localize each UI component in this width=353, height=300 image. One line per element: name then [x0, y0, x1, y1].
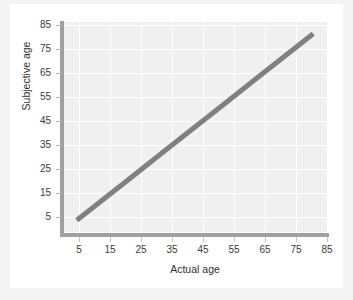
y-axis-spine: [60, 21, 64, 237]
y-axis-tick: [56, 121, 62, 122]
y-axis-tick-label: 35: [25, 140, 51, 150]
chart-card: 85 75 65 55 45 35 25 15 5 5 15 25 35 45 …: [10, 4, 343, 288]
plot-area: [62, 22, 328, 232]
y-axis-tick: [56, 73, 62, 74]
y-axis-tick: [56, 25, 62, 26]
x-axis-title: Actual age: [62, 263, 328, 275]
x-axis-tick: [141, 237, 142, 242]
x-axis-tick: [79, 237, 80, 242]
x-axis-spine: [60, 233, 329, 237]
x-axis-tick-label: 85: [312, 245, 342, 255]
x-axis-tick-label: 65: [250, 245, 280, 255]
x-axis-tick-label: 75: [281, 245, 311, 255]
x-axis-tick: [110, 237, 111, 242]
y-axis-tick-label: 25: [25, 164, 51, 174]
x-axis-tick-label: 45: [188, 245, 218, 255]
y-axis-tick-label: 15: [25, 188, 51, 198]
x-axis-tick: [327, 237, 328, 242]
x-axis-tick: [203, 237, 204, 242]
series-line: [62, 22, 328, 232]
x-axis-tick: [296, 237, 297, 242]
y-axis-tick: [56, 169, 62, 170]
x-axis-tick-label: 15: [95, 245, 125, 255]
x-axis-tick: [265, 237, 266, 242]
y-axis-tick: [56, 145, 62, 146]
y-axis-tick-label: 5: [25, 212, 51, 222]
x-axis-tick: [172, 237, 173, 242]
y-axis-tick: [56, 49, 62, 50]
x-axis-tick-label: 25: [126, 245, 156, 255]
x-axis-tick-label: 5: [64, 245, 94, 255]
y-axis-title: Subjective age: [20, 42, 32, 111]
x-axis-tick-label: 35: [157, 245, 187, 255]
y-axis-title-wrapper: Subjective age: [16, 16, 34, 136]
y-axis-tick: [56, 193, 62, 194]
x-axis-tick-label: 55: [219, 245, 249, 255]
y-axis-tick: [56, 97, 62, 98]
x-axis-tick: [234, 237, 235, 242]
y-axis-tick: [56, 217, 62, 218]
